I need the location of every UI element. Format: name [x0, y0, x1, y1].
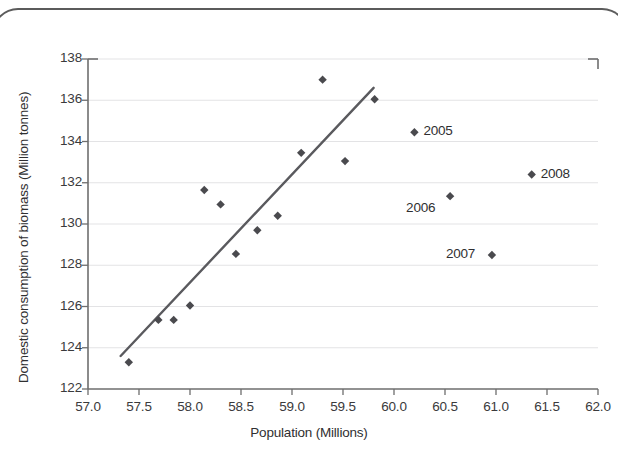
scatter-chart: 122124126128130132134136138 57.057.558.0… — [0, 0, 618, 452]
data-point-label-2008: 2008 — [541, 166, 570, 181]
x-axis-tick-label: 58.0 — [165, 399, 215, 414]
y-axis-tick-label: 126 — [44, 298, 82, 313]
data-point-label-2005: 2005 — [423, 123, 452, 138]
data-point-label-2007: 2007 — [446, 246, 475, 261]
y-axis-tick-label: 136 — [44, 91, 82, 106]
data-point-marker — [446, 192, 454, 200]
x-axis-title: Population (Millions) — [0, 425, 618, 440]
y-axis-tick-label: 130 — [44, 215, 82, 230]
trend-line — [121, 88, 374, 356]
data-point-marker — [488, 251, 496, 259]
y-axis-tick-label: 138 — [44, 50, 82, 65]
data-point-marker — [341, 157, 349, 165]
data-point-marker — [216, 200, 224, 208]
y-axis-tick-label: 132 — [44, 174, 82, 189]
x-axis-tick-label: 61.0 — [471, 399, 521, 414]
y-axis-title: Domestic consumption of biomass (Million… — [16, 92, 31, 383]
y-axis-tick-label: 124 — [44, 339, 82, 354]
plot-canvas — [0, 0, 618, 452]
data-point-marker — [125, 358, 133, 366]
x-axis-tick-label: 62.0 — [573, 399, 618, 414]
data-point-marker — [528, 170, 536, 178]
y-axis-tick-label: 128 — [44, 256, 82, 271]
x-axis-tick-label: 58.5 — [216, 399, 266, 414]
data-point-marker — [186, 301, 194, 309]
x-axis-tick-label: 59.5 — [318, 399, 368, 414]
data-point-marker — [200, 186, 208, 194]
data-point-marker — [253, 226, 261, 234]
data-point-marker — [154, 316, 162, 324]
y-axis-tick-label: 122 — [44, 380, 82, 395]
data-point-label-2006: 2006 — [406, 200, 435, 215]
data-point-marker — [370, 95, 378, 103]
x-axis-tick-label: 60.5 — [420, 399, 470, 414]
x-axis-tick-label: 57.5 — [114, 399, 164, 414]
data-point-marker — [232, 250, 240, 258]
x-axis-tick-label: 61.5 — [522, 399, 572, 414]
data-point-marker — [410, 128, 418, 136]
data-point-marker — [297, 149, 305, 157]
data-point-marker — [169, 316, 177, 324]
data-point-marker — [318, 75, 326, 83]
x-axis-tick-label: 60.0 — [369, 399, 419, 414]
x-axis-tick-label: 57.0 — [63, 399, 113, 414]
x-axis-tick-label: 59.0 — [267, 399, 317, 414]
chart-page: 122124126128130132134136138 57.057.558.0… — [0, 0, 618, 452]
data-point-marker — [274, 212, 282, 220]
y-axis-tick-label: 134 — [44, 133, 82, 148]
